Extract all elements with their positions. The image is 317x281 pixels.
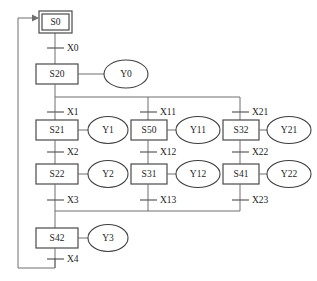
transition-x22[interactable]: X22 <box>232 147 269 157</box>
transition-x13[interactable]: X13 <box>140 195 177 205</box>
step-s50[interactable]: S42 <box>36 228 78 248</box>
transition-x0[interactable]: X0 <box>47 43 79 53</box>
step-s32[interactable]: S31 <box>131 164 167 184</box>
transition-x1-label: X1 <box>67 107 79 117</box>
step-s31[interactable]: S50 <box>131 120 167 140</box>
divergence-bar <box>55 97 240 112</box>
transition-x12[interactable]: X12 <box>140 147 177 157</box>
transition-x21[interactable]: X21 <box>232 107 269 117</box>
transition-x22-label: X22 <box>252 147 269 157</box>
transition-x3-label: X3 <box>67 195 79 205</box>
step-s41-label: S32 <box>234 125 249 135</box>
step-s50-label: S42 <box>50 233 65 243</box>
step-s21[interactable]: S21 <box>36 120 78 140</box>
step-s32-label: S31 <box>142 169 157 179</box>
action-y11-label: Y11 <box>190 125 206 135</box>
step-s20-label: S20 <box>50 69 65 79</box>
action-y12-label: Y12 <box>190 169 207 179</box>
sfc-diagram: S0 X0 S20 Y0 <box>0 0 317 281</box>
action-y22[interactable]: Y22 <box>267 161 311 188</box>
action-y22-label: Y22 <box>281 169 298 179</box>
action-y3-label: Y3 <box>102 233 114 243</box>
transition-x23[interactable]: X23 <box>232 195 269 205</box>
transition-x1[interactable]: X1 <box>47 107 79 117</box>
transition-x13-label: X13 <box>160 195 177 205</box>
transition-x2[interactable]: X2 <box>47 147 79 157</box>
action-y0[interactable]: Y0 <box>104 60 148 88</box>
transition-x12-label: X12 <box>160 147 177 157</box>
sfc-diagram-canvas: S0 X0 S20 Y0 <box>0 0 317 281</box>
transition-x11-label: X11 <box>160 107 176 117</box>
action-y12[interactable]: Y12 <box>176 161 220 188</box>
step-s0[interactable]: S0 <box>39 11 72 33</box>
step-s42[interactable]: S41 <box>223 164 259 184</box>
step-s21-label: S21 <box>50 125 65 135</box>
transition-x3[interactable]: X3 <box>47 195 79 205</box>
action-y2-label: Y2 <box>102 169 114 179</box>
transition-x0-label: X0 <box>67 43 79 53</box>
transition-x4-label: X4 <box>67 254 79 264</box>
step-s20[interactable]: S20 <box>36 64 78 84</box>
step-s42-label: S41 <box>234 169 249 179</box>
step-s0-label: S0 <box>50 17 60 27</box>
transition-x4[interactable]: X4 <box>47 254 79 264</box>
action-y1[interactable]: Y1 <box>88 117 128 144</box>
step-s41[interactable]: S32 <box>223 120 259 140</box>
action-y11[interactable]: Y11 <box>176 117 220 144</box>
action-y0-label: Y0 <box>120 69 132 79</box>
step-s22[interactable]: S22 <box>36 164 78 184</box>
transition-x21-label: X21 <box>252 107 269 117</box>
transition-x11[interactable]: X11 <box>140 107 176 117</box>
action-y1-label: Y1 <box>102 125 114 135</box>
action-y2[interactable]: Y2 <box>88 161 128 188</box>
action-y21[interactable]: Y21 <box>267 117 311 144</box>
action-y3[interactable]: Y3 <box>88 225 128 252</box>
transition-x23-label: X23 <box>252 195 269 205</box>
action-y21-label: Y21 <box>281 125 298 135</box>
transition-x2-label: X2 <box>67 147 79 157</box>
step-s31-label: S50 <box>142 125 157 135</box>
step-s22-label: S22 <box>50 169 65 179</box>
